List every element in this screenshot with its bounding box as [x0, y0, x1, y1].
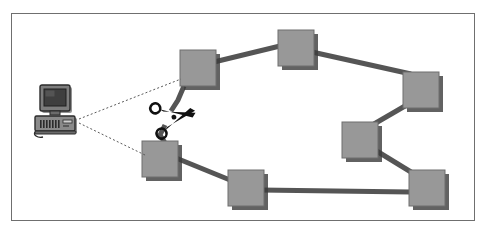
- link-right-upper-to-right-middle[interactable]: [374, 106, 405, 124]
- probe-line-to-top-left-node: [79, 79, 181, 119]
- node-bottom-center[interactable]: [228, 170, 268, 210]
- network-diagram-figure: [0, 0, 489, 234]
- node-top-center[interactable]: [278, 30, 318, 70]
- node-top-left[interactable]: [180, 50, 220, 90]
- diagram-canvas: [0, 0, 489, 234]
- link-right-lower-to-bottom-center[interactable]: [260, 190, 410, 192]
- node-right-lower[interactable]: [409, 170, 449, 210]
- node-right-middle[interactable]: [342, 122, 382, 162]
- computer-workstation-icon[interactable]: [35, 85, 78, 137]
- node-layer: [142, 30, 449, 210]
- link-top-left-to-top-center[interactable]: [214, 46, 280, 62]
- link-top-center-to-right-upper[interactable]: [312, 52, 411, 74]
- link-bottom-center-to-bottom-left[interactable]: [176, 158, 230, 180]
- probe-line-to-bottom-left-node: [79, 123, 147, 156]
- node-right-upper[interactable]: [403, 72, 443, 112]
- node-bottom-left[interactable]: [142, 141, 182, 181]
- link-bottom-left-to-top-left-upper-stub[interactable]: [171, 86, 184, 111]
